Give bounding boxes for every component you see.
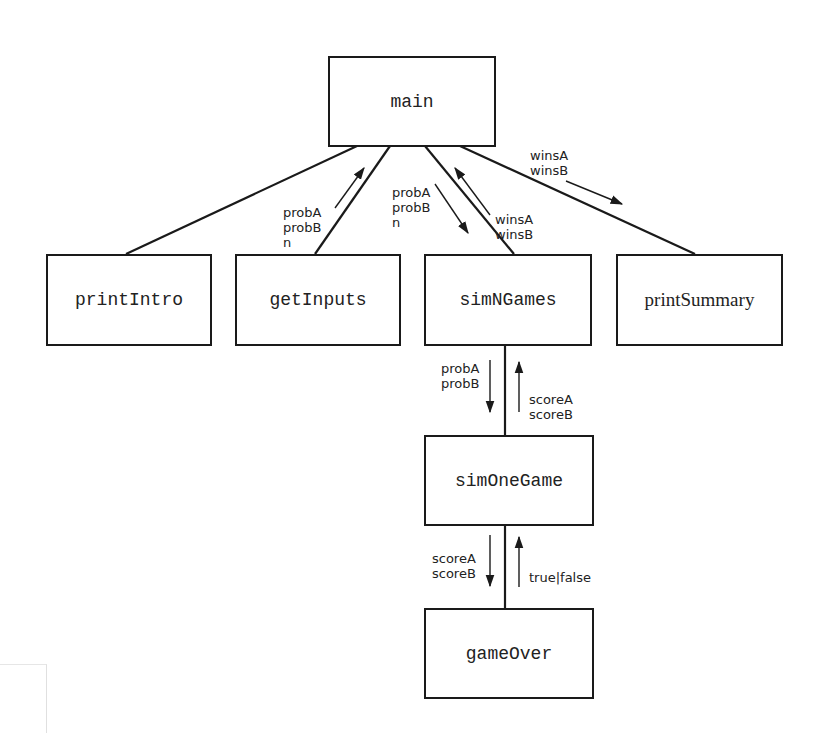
arrow-up-icon bbox=[455, 168, 490, 215]
arrow-down-icon bbox=[566, 181, 622, 204]
flow-label-simOneGame-to-simNGames: scoreA scoreB bbox=[529, 392, 573, 422]
flow-label-simNGames-to-main: winsA winsB bbox=[495, 212, 533, 242]
node-printSummary: printSummary bbox=[616, 254, 783, 346]
node-label: getInputs bbox=[269, 290, 366, 310]
flow-label-main-to-simNGames: probA probB n bbox=[392, 185, 430, 230]
scan-artifact bbox=[0, 664, 47, 733]
node-printIntro: printIntro bbox=[46, 254, 212, 346]
flow-label-simOneGame-to-gameOver: scoreA scoreB bbox=[432, 551, 476, 581]
node-simNGames: simNGames bbox=[424, 254, 592, 346]
node-getInputs: getInputs bbox=[235, 254, 401, 346]
node-label: main bbox=[390, 92, 433, 112]
node-label: simOneGame bbox=[455, 471, 563, 491]
node-label: printIntro bbox=[75, 290, 183, 310]
flow-label-gameOver-to-simOneGame: true|false bbox=[529, 570, 591, 585]
flow-label-getInputs-to-main: probA probB n bbox=[283, 205, 321, 250]
node-label: gameOver bbox=[466, 644, 552, 664]
edge-main-printIntro bbox=[126, 146, 357, 254]
flow-label-simNGames-to-simOneGame: probA probB bbox=[441, 361, 479, 391]
flow-label-main-to-printSummary: winsA winsB bbox=[530, 148, 568, 178]
node-label: simNGames bbox=[459, 290, 556, 310]
node-main: main bbox=[328, 56, 496, 147]
edge-main-getInputs bbox=[315, 146, 390, 254]
node-label: printSummary bbox=[645, 289, 755, 311]
node-gameOver: gameOver bbox=[424, 608, 594, 699]
node-simOneGame: simOneGame bbox=[424, 435, 594, 526]
